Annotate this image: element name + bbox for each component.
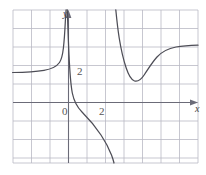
function-plot	[0, 0, 206, 175]
curve-right-branch	[116, 10, 198, 81]
x-tick-label-2: 2	[99, 106, 105, 117]
x-axis-name: x	[195, 104, 199, 114]
y-axis-name: y	[63, 9, 67, 19]
curve-middle-branch	[67, 10, 114, 163]
graph-figure: 2 0 2 y x	[0, 0, 206, 175]
grid-lines	[13, 10, 198, 163]
curve-left-branch	[13, 10, 67, 73]
origin-label: 0	[62, 106, 68, 117]
y-tick-label-2: 2	[77, 66, 83, 77]
